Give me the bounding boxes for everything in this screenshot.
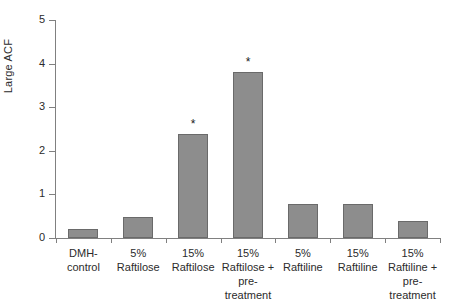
y-tick-label-5: 5 (39, 13, 45, 25)
y-tick-3: 3 (49, 107, 56, 108)
y-tick-0: 0 (49, 238, 56, 239)
x-tick-5 (330, 238, 331, 243)
y-tick-1: 1 (49, 194, 56, 195)
bar (398, 221, 428, 238)
bar-chart: Large ACF 012345 ** DMH- control5% Rafti… (0, 0, 463, 308)
category-label: 5% Raftiline (275, 246, 330, 274)
y-tick-label-4: 4 (39, 57, 45, 69)
y-tick-label-0: 0 (39, 231, 45, 243)
x-tick-2 (166, 238, 167, 243)
x-axis-line (55, 238, 441, 239)
significance-star: * (242, 56, 254, 68)
category-label: 15% Raftilose + pre- treatment (221, 246, 276, 302)
x-tick-6 (385, 238, 386, 243)
bar (178, 134, 208, 238)
y-tick-label-1: 1 (39, 187, 45, 199)
x-tick-4 (275, 238, 276, 243)
y-axis-line (55, 20, 56, 239)
x-tick-3 (221, 238, 222, 243)
y-tick-4: 4 (49, 64, 56, 65)
category-label: DMH- control (56, 246, 111, 274)
category-label: 15% Raftiline (330, 246, 385, 274)
x-tick-0 (56, 238, 57, 243)
significance-star: * (187, 118, 199, 130)
bar (288, 204, 318, 238)
category-label: 15% Raftilose (166, 246, 221, 274)
y-tick-label-3: 3 (39, 100, 45, 112)
bar (123, 217, 153, 238)
y-axis-title: Large ACF (2, 16, 14, 116)
y-tick-2: 2 (49, 151, 56, 152)
category-label: 15% Raftiline + pre- treatment (385, 246, 440, 302)
category-label: 5% Raftilose (111, 246, 166, 274)
y-tick-5: 5 (49, 20, 56, 21)
bar (68, 229, 98, 238)
bar (233, 72, 263, 238)
y-tick-label-2: 2 (39, 144, 45, 156)
x-tick-7 (440, 238, 441, 243)
bar (343, 204, 373, 238)
x-tick-1 (111, 238, 112, 243)
